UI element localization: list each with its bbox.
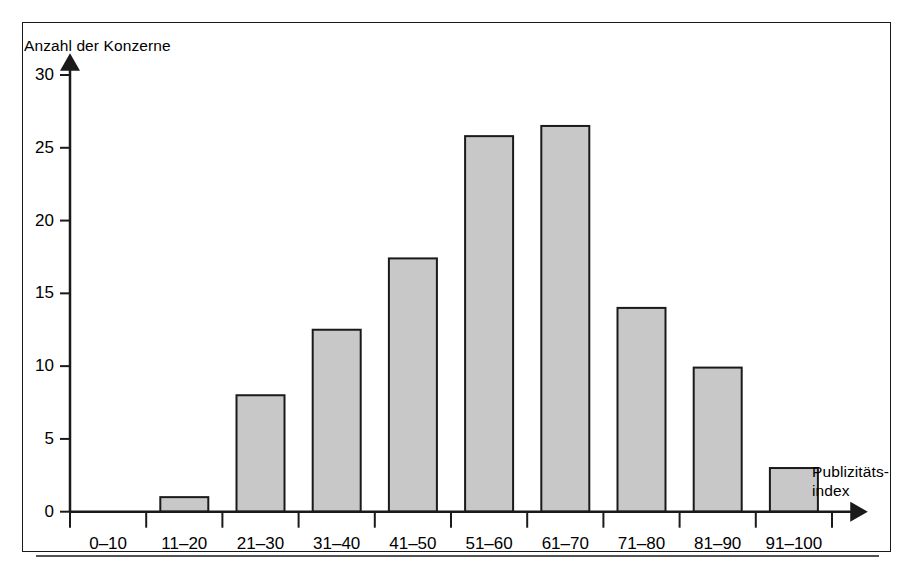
x-tick-label: 61–70 xyxy=(542,534,589,554)
bar-91-100 xyxy=(770,468,818,512)
bar-series xyxy=(160,126,818,512)
y-tick-label: 25 xyxy=(10,138,54,158)
y-tick-label: 15 xyxy=(10,283,54,303)
bar-71-80 xyxy=(618,308,666,512)
x-tick-label: 71–80 xyxy=(618,534,665,554)
bar-11-20 xyxy=(160,497,208,512)
y-tick-label: 30 xyxy=(10,65,54,85)
y-tick-label: 20 xyxy=(10,211,54,231)
bar-81-90 xyxy=(694,368,742,512)
x-tick-label: 31–40 xyxy=(313,534,360,554)
y-tick-label: 10 xyxy=(10,356,54,376)
x-tick-label: 21–30 xyxy=(237,534,284,554)
y-axis-title: Anzahl der Konzerne xyxy=(24,36,171,55)
x-tick-label: 11–20 xyxy=(161,534,207,554)
bar-51-60 xyxy=(465,136,513,512)
x-tick-label: 91–100 xyxy=(766,534,823,554)
bar-61-70 xyxy=(541,126,589,512)
y-tick-label: 5 xyxy=(10,429,54,449)
bar-31-40 xyxy=(313,330,361,512)
x-axis-title-line1: Publizitäts- xyxy=(812,463,889,480)
x-tick-label: 41–50 xyxy=(389,534,436,554)
bar-21-30 xyxy=(237,395,285,511)
x-tick-label: 51–60 xyxy=(465,534,512,554)
bar-41-50 xyxy=(389,258,437,511)
x-tick-label: 0–10 xyxy=(89,534,127,554)
bar-chart-plot xyxy=(0,0,915,576)
y-tick-label: 0 xyxy=(10,502,54,522)
x-axis-title: Publizitäts-index xyxy=(812,462,889,501)
chart-figure: Anzahl der Konzerne Publizitäts-index 05… xyxy=(0,0,915,576)
x-tick-label: 81–90 xyxy=(694,534,741,554)
x-axis-title-line2: index xyxy=(812,482,850,499)
